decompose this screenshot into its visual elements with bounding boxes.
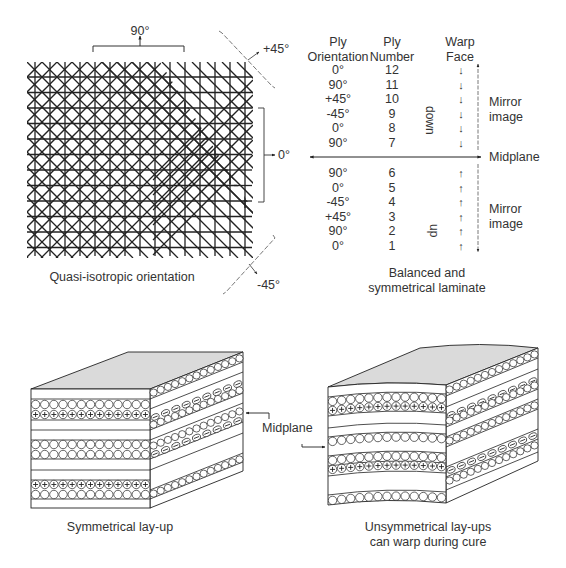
warp-down-arrow-icon: ↓ — [458, 92, 464, 107]
mirror-line: image — [489, 217, 523, 232]
warp-column-lower: ↑ ↑ ↑ ↑ ↑ ↑ — [458, 166, 464, 254]
orientation-column-upper: 0° 90° +45° -45° 0° 90° — [325, 63, 351, 151]
header-line: Warp — [445, 35, 474, 50]
table-cell: 0° — [325, 239, 351, 254]
table-cell: 90° — [325, 136, 351, 151]
table-cell: 5 — [389, 181, 396, 196]
table-cell: 0° — [325, 63, 351, 78]
mirror-image-top: Mirror image — [489, 95, 523, 125]
number-column-upper: 12 11 10 9 8 7 — [385, 63, 399, 151]
table-cell: 2 — [389, 224, 396, 239]
table-cell: 12 — [385, 63, 399, 78]
table-cell: +45° — [325, 92, 351, 107]
warp-down-arrow-icon: ↓ — [458, 121, 464, 136]
caption-line: Unsymmetrical lay-ups — [365, 520, 491, 535]
mirror-line: image — [489, 110, 523, 125]
mirror-image-bottom: Mirror image — [489, 202, 523, 232]
table-cell: +45° — [325, 210, 351, 225]
warp-up-arrow-icon: ↑ — [458, 239, 464, 254]
caption-line: symmetrical laminate — [368, 281, 485, 296]
plus45-degree-lines — [0, 62, 312, 258]
header-line: Ply — [370, 35, 414, 50]
zero-label: 0° — [278, 148, 290, 163]
warp-down-arrow-icon: ↓ — [458, 78, 464, 93]
plus45-label: +45° — [263, 42, 289, 57]
table-cell: -45° — [325, 195, 351, 210]
header-ply-number: Ply Number — [370, 35, 414, 64]
quasi-isotropic-caption: Quasi-isotropic orientation — [49, 270, 194, 285]
zero-indicator — [258, 108, 275, 202]
minus45-label: -45° — [257, 278, 280, 293]
up-label: up — [427, 224, 441, 237]
mirror-line: Mirror — [489, 95, 523, 110]
table-cell: 90° — [325, 224, 351, 239]
header-line: Ply — [307, 35, 368, 50]
table-cell: 90° — [325, 166, 351, 181]
header-line: Face — [445, 50, 474, 65]
table-cell: -45° — [325, 107, 351, 122]
header-warp-face: Warp Face — [445, 35, 474, 64]
warp-down-arrow-icon: ↓ — [458, 136, 464, 151]
table-cell: 11 — [385, 78, 399, 93]
midplane-label: Midplane — [489, 150, 540, 165]
unsymmetrical-layup-block — [328, 345, 538, 506]
table-cell: 0° — [325, 121, 351, 136]
warp-up-arrow-icon: ↑ — [458, 181, 464, 196]
table-cell: 3 — [389, 210, 396, 225]
unsymmetrical-caption: Unsymmetrical lay-ups can warp during cu… — [365, 520, 491, 550]
symmetrical-caption: Symmetrical lay-up — [67, 520, 173, 535]
table-cell: 1 — [389, 239, 396, 254]
balanced-caption: Balanced and symmetrical laminate — [368, 266, 485, 296]
number-column-lower: 6 5 4 3 2 1 — [389, 166, 396, 254]
caption-line: Balanced and — [368, 266, 485, 281]
down-label: down — [423, 106, 437, 135]
symmetrical-layup-block — [31, 352, 243, 508]
warp-down-arrow-icon: ↓ — [458, 63, 464, 78]
warp-down-arrow-icon: ↓ — [458, 107, 464, 122]
warp-up-arrow-icon: ↑ — [458, 166, 464, 181]
warp-up-arrow-icon: ↑ — [458, 195, 464, 210]
header-line: Number — [370, 50, 414, 65]
table-cell: 8 — [385, 121, 399, 136]
warp-up-arrow-icon: ↑ — [458, 210, 464, 225]
header-line: Orientation — [307, 50, 368, 65]
warp-up-arrow-icon: ↑ — [458, 224, 464, 239]
table-cell: 10 — [385, 92, 399, 107]
mirror-line: Mirror — [489, 202, 523, 217]
deg90-label: 90° — [131, 24, 150, 39]
table-cell: 90° — [325, 78, 351, 93]
table-cell: 9 — [385, 107, 399, 122]
table-cell: 6 — [389, 166, 396, 181]
header-ply-orientation: Ply Orientation — [307, 35, 368, 64]
caption-line: can warp during cure — [365, 535, 491, 550]
table-cell: 0° — [325, 181, 351, 196]
table-cell: 4 — [389, 195, 396, 210]
layup-midplane-label: Midplane — [262, 421, 313, 436]
orientation-column-lower: 90° 0° -45° +45° 90° 0° — [325, 166, 351, 254]
warp-column-upper: ↓ ↓ ↓ ↓ ↓ ↓ — [458, 63, 464, 151]
quasi-isotropic-grid — [0, 62, 433, 258]
table-cell: 7 — [385, 136, 399, 151]
